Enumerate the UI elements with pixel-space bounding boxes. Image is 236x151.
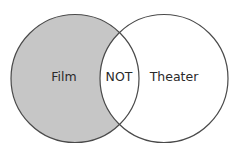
intersection-label: NOT — [106, 70, 133, 84]
film-label: Film — [51, 70, 76, 84]
theater-label: Theater — [150, 70, 199, 84]
